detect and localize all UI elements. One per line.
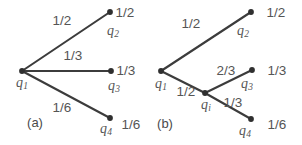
edge-label-b-qi-q3: 2/3 bbox=[217, 64, 236, 78]
node-b-q4 bbox=[248, 116, 254, 122]
panel-caption-b: (b) bbox=[157, 117, 173, 130]
node-b-q3 bbox=[249, 67, 255, 73]
node-b-q1 bbox=[158, 68, 164, 74]
node-b-qi bbox=[202, 90, 208, 96]
node-label-b-q1: q1 bbox=[155, 77, 167, 93]
edge-label-b-q1-q2: 1/2 bbox=[182, 17, 201, 31]
leaf-value-a-q3: 1/3 bbox=[117, 64, 136, 78]
panel-caption-a: (a) bbox=[27, 116, 43, 129]
node-label-b-qi: qi bbox=[201, 98, 211, 114]
leaf-value-b-q4: 1/6 bbox=[268, 118, 287, 132]
leaf-value-b-q3: 1/3 bbox=[268, 64, 287, 78]
figure-canvas: q1 1/2 1/3 1/6 q2 q3 q4 1/2 1/3 1/6 (a) … bbox=[0, 0, 302, 145]
node-a-q2 bbox=[107, 9, 113, 15]
node-label-b-q2: q2 bbox=[237, 24, 249, 40]
node-label-b-q3: q3 bbox=[241, 77, 253, 93]
edge-label-a-q1-q4: 1/6 bbox=[53, 101, 72, 115]
node-a-q4 bbox=[107, 115, 113, 121]
edge-label-a-q1-q2: 1/2 bbox=[53, 14, 72, 28]
node-b-q2 bbox=[248, 9, 254, 15]
edge-label-b-q1-qi: 1/2 bbox=[177, 85, 196, 99]
edge-label-a-q1-q3: 1/3 bbox=[64, 49, 83, 63]
node-a-q1 bbox=[19, 68, 25, 74]
node-label-a-q4: q4 bbox=[100, 122, 112, 138]
tree-diagrams-svg bbox=[0, 0, 302, 145]
leaf-value-a-q4: 1/6 bbox=[122, 118, 141, 132]
leaf-value-b-q2: 1/2 bbox=[267, 6, 286, 20]
edge-label-b-qi-q4: 1/3 bbox=[224, 96, 243, 110]
node-label-a-q3: q3 bbox=[108, 79, 120, 95]
node-label-b-q4: q4 bbox=[239, 124, 251, 140]
node-label-a-q2: q2 bbox=[107, 24, 119, 40]
edge-b-q1-q2 bbox=[161, 12, 251, 71]
leaf-value-a-q2: 1/2 bbox=[116, 6, 135, 20]
node-label-a-q1: q1 bbox=[16, 76, 28, 92]
node-a-q3 bbox=[108, 68, 114, 74]
